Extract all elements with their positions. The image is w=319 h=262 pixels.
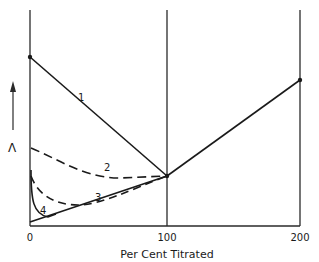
- point-start-curve-1: [28, 55, 32, 59]
- titration-chart: Λ 1 2 3 4 0 100 200 Per Cent Titrated: [0, 0, 319, 262]
- x-tick-0: 0: [27, 232, 33, 243]
- y-arrow-icon: [10, 81, 16, 130]
- curve-2: [31, 148, 167, 178]
- x-tick-100: 100: [157, 232, 176, 243]
- excess-titrant-line: [167, 80, 300, 176]
- point-200: [298, 78, 302, 82]
- x-axis-label: Per Cent Titrated: [120, 248, 213, 261]
- curve-label-1: 1: [78, 92, 84, 103]
- curve-1: [30, 57, 167, 176]
- point-equivalence: [165, 174, 169, 178]
- curve-label-4: 4: [40, 205, 46, 216]
- curve-label-3: 3: [95, 192, 101, 203]
- y-axis-label: Λ: [8, 141, 17, 155]
- curve-label-2: 2: [104, 162, 110, 173]
- x-tick-200: 200: [290, 232, 309, 243]
